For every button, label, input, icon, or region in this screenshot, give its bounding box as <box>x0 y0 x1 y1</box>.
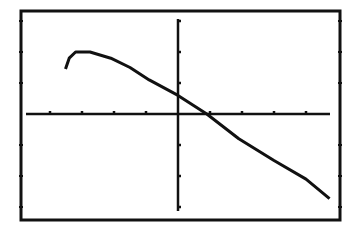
graph-frame <box>21 11 340 220</box>
function-curve <box>66 52 328 198</box>
axes <box>26 19 330 211</box>
calculator-graph <box>0 0 356 235</box>
